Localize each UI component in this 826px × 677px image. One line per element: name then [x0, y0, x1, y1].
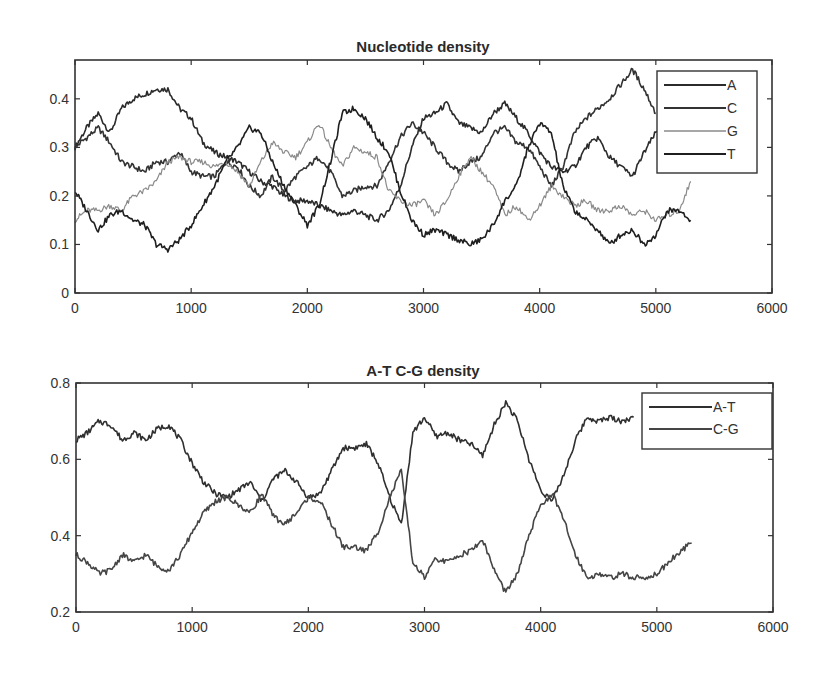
chart-title: Nucleotide density — [356, 38, 490, 55]
y-tick-label: 0.4 — [51, 528, 71, 544]
y-tick-label: 0.1 — [50, 236, 70, 252]
x-tick-label: 2000 — [293, 619, 324, 635]
legend-label-c-g: C-G — [713, 421, 739, 437]
y-tick-label: 0 — [61, 285, 69, 301]
y-tick-label: 0.2 — [50, 188, 70, 204]
series-line-c-g — [76, 469, 692, 592]
x-tick-label: 6000 — [756, 300, 787, 316]
x-tick-label: 3000 — [408, 300, 439, 316]
series-line-g — [75, 126, 691, 223]
legend-label-t: T — [727, 146, 736, 162]
x-tick-label: 1000 — [177, 619, 208, 635]
plot-lines — [76, 401, 692, 592]
x-tick-label: 0 — [71, 300, 79, 316]
y-tick-label: 0.3 — [50, 139, 70, 155]
y-tick-label: 0.4 — [50, 91, 70, 107]
legend: ACGT — [657, 71, 757, 173]
y-tick-label: 0.8 — [51, 375, 71, 391]
chart-title: A-T C-G density — [366, 362, 480, 379]
x-tick-label: 3000 — [409, 619, 440, 635]
x-tick-label: 4000 — [524, 300, 555, 316]
legend-label-a: A — [727, 77, 737, 93]
legend-label-c: C — [727, 100, 737, 116]
y-tick-label: 0.6 — [51, 451, 71, 467]
series-line-a-t — [76, 401, 634, 523]
x-tick-label: 5000 — [641, 619, 672, 635]
x-tick-label: 4000 — [525, 619, 556, 635]
figure-canvas: Nucleotide density 010002000300040005000… — [0, 0, 826, 677]
legend-label-a-t: A-T — [713, 399, 736, 415]
x-tick-label: 0 — [72, 619, 80, 635]
x-tick-label: 6000 — [757, 619, 788, 635]
at-cg-density-chart: A-T C-G density 010002000300040005000600… — [51, 362, 789, 635]
nucleotide-density-chart: Nucleotide density 010002000300040005000… — [50, 38, 788, 316]
series-line-t — [75, 106, 691, 252]
x-tick-label: 2000 — [292, 300, 323, 316]
x-tick-label: 1000 — [176, 300, 207, 316]
x-tick-label: 5000 — [640, 300, 671, 316]
legend: A-TC-G — [642, 393, 772, 449]
y-tick-label: 0.2 — [51, 604, 71, 620]
plot-lines — [75, 69, 691, 253]
legend-label-g: G — [727, 123, 738, 139]
